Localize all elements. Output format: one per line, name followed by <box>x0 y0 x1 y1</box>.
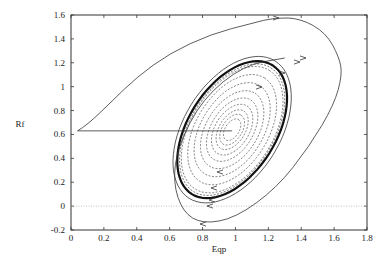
arrow-right-icon <box>256 85 262 89</box>
x-tick-label: 0 <box>69 233 74 243</box>
x-tick-label: 0.2 <box>98 233 109 243</box>
arrow-left-icon <box>211 186 217 190</box>
x-tick-label: 1.6 <box>328 233 340 243</box>
y-tick-label: 1.4 <box>54 34 66 44</box>
outer-approach-ring <box>173 56 291 203</box>
limit-cycle-inner-dashed <box>180 64 285 196</box>
plot-border <box>71 15 367 230</box>
arrow-left-icon <box>200 222 206 226</box>
limit-cycle <box>177 61 287 198</box>
y-tick-label: 0.6 <box>54 129 66 139</box>
arrow-left-icon <box>207 204 213 208</box>
y-axis-label: Rf <box>16 119 25 129</box>
x-tick-label: 1 <box>233 233 238 243</box>
x-tick-label: 0.4 <box>131 233 143 243</box>
trajectories <box>78 18 342 222</box>
x-tick-label: 0.8 <box>197 233 209 243</box>
arrow-right-icon <box>294 60 300 64</box>
arrow-right-icon <box>300 56 306 60</box>
x-axis-label: Eqp <box>212 244 227 254</box>
arrow-left-icon <box>217 170 223 174</box>
y-tick-label: -0.2 <box>51 225 65 235</box>
y-tick-label: 1.2 <box>54 58 65 68</box>
direction-arrows <box>200 16 306 226</box>
inner-spiral-ring <box>206 98 258 161</box>
y-tick-label: 0 <box>61 201 66 211</box>
phase-plot: 00.20.40.60.811.21.41.61.8-0.200.20.40.6… <box>0 0 391 260</box>
outer-trajectory <box>78 18 342 222</box>
y-tick-label: 1.6 <box>54 10 66 20</box>
x-tick-label: 1.8 <box>361 233 373 243</box>
inner-spiral-ring <box>201 91 264 169</box>
y-tick-label: 0.2 <box>54 177 65 187</box>
y-tick-label: 0.4 <box>54 153 66 163</box>
y-tick-label: 0.8 <box>54 106 66 116</box>
x-tick-label: 1.4 <box>296 233 308 243</box>
plot-frame <box>71 15 367 230</box>
x-tick-label: 1.2 <box>263 233 274 243</box>
inner-spiral-ring <box>224 119 241 141</box>
inner-spiral-ring <box>181 67 283 193</box>
y-tick-label: 1 <box>61 82 66 92</box>
x-tick-label: 0.6 <box>164 233 176 243</box>
